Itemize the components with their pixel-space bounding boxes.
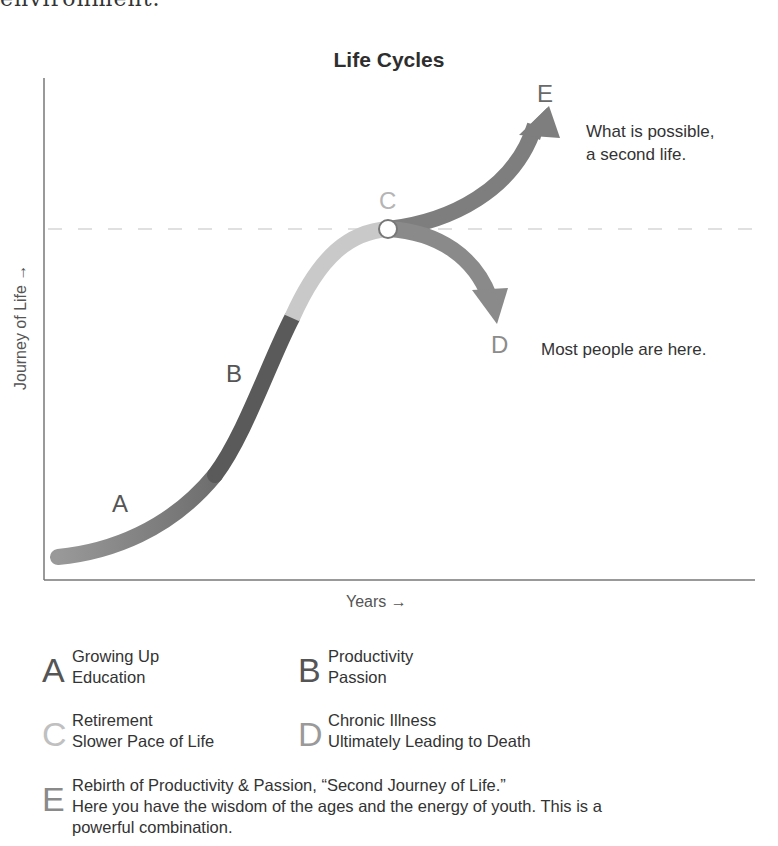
point-label-b: B xyxy=(226,360,242,388)
legend-letter: D xyxy=(298,716,328,752)
legend-letter: C xyxy=(42,716,72,752)
legend-letter: A xyxy=(42,652,72,688)
legend-letter: E xyxy=(42,781,72,817)
legend-item-c: C Retirement Slower Pace of Life xyxy=(42,710,214,752)
stage-d-arrowhead xyxy=(472,288,508,324)
legend-item-b: B Productivity Passion xyxy=(298,646,413,688)
point-label-c: C xyxy=(379,187,396,215)
stage-c-curve xyxy=(292,229,388,318)
retirement-node xyxy=(379,220,397,238)
point-label-a: A xyxy=(112,490,128,518)
point-label-e: E xyxy=(537,80,553,108)
stage-a-curve xyxy=(58,475,215,557)
x-axis-label: Years → xyxy=(346,593,407,611)
stage-e-curve xyxy=(388,125,535,229)
e-annotation: What is possible, a second life. xyxy=(586,120,715,166)
legend-item-a: A Growing Up Education xyxy=(42,646,159,688)
legend-letter: B xyxy=(298,652,328,688)
legend-item-d: D Chronic Illness Ultimately Leading to … xyxy=(298,710,531,752)
stage-b-curve xyxy=(215,318,292,475)
stage-d-curve xyxy=(388,229,490,298)
y-axis-label: Journey of Life → xyxy=(12,265,30,390)
d-annotation: Most people are here. xyxy=(541,338,706,361)
point-label-d: D xyxy=(491,331,508,359)
legend-item-e: E Rebirth of Productivity & Passion, “Se… xyxy=(42,775,602,838)
